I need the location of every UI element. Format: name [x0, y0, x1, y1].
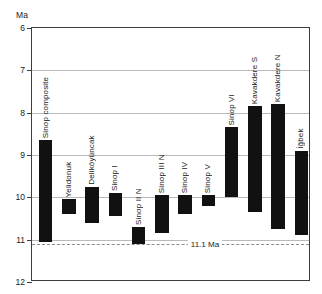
bar-delik-y-ncak[interactable]	[85, 187, 99, 223]
y-tick-label-10: 10	[16, 192, 25, 202]
gridline-8	[32, 113, 309, 114]
gridline-9	[32, 155, 309, 156]
plot-area: 6789101112 Sinop compositeYelidonukDelik…	[31, 27, 310, 281]
bar-sinop-ii-n[interactable]	[132, 227, 146, 244]
bar-label-sinop-v: Sinop V	[203, 28, 212, 193]
y-tick-mark-12	[27, 282, 32, 283]
y-axis-unit-label: Ma	[16, 10, 28, 20]
y-tick-label-11: 11	[16, 235, 25, 245]
bar-label-sinop-composite: Sinop composite	[41, 28, 50, 138]
bar-kavakdere-s[interactable]	[248, 106, 262, 212]
bar-label-sinop-i: Sinop I	[110, 28, 119, 191]
y-tick-mark-10	[27, 197, 32, 198]
y-tick-mark-6	[27, 28, 32, 29]
bar-label-i-bek: İğbek	[296, 28, 305, 149]
y-tick-mark-8	[27, 113, 32, 114]
bar-label-sinop-iv: Sinop IV	[180, 28, 189, 193]
bar-sinop-composite[interactable]	[39, 140, 53, 242]
bar-label-kavakdere-s: Kavakdere S	[250, 28, 259, 104]
bar-sinop-vi[interactable]	[225, 127, 239, 197]
bar-i-bek[interactable]	[295, 151, 309, 236]
bar-sinop-iv[interactable]	[178, 195, 192, 214]
reference-line-label: 11.1 Ma	[188, 239, 222, 248]
gridline-7	[32, 70, 309, 71]
y-tick-label-9: 9	[20, 150, 25, 160]
bar-sinop-iii-n[interactable]	[155, 195, 169, 233]
bar-kavakdere-n[interactable]	[271, 104, 285, 229]
reference-line-11-1-ma	[32, 244, 309, 245]
y-tick-label-8: 8	[20, 108, 25, 118]
bar-sinop-v[interactable]	[202, 195, 216, 206]
chart-figure: Ma 6789101112 Sinop compositeYelidonukDe…	[0, 0, 322, 294]
bar-label-kavakdere-n: Kavakdere N	[273, 28, 282, 102]
y-tick-label-12: 12	[16, 277, 25, 287]
bar-label-sinop-iii-n: Sinop III N	[157, 28, 166, 193]
y-tick-mark-11	[27, 240, 32, 241]
bar-label-sinop-ii-n: Sinop II N	[134, 28, 143, 225]
bar-label-yelidonuk: Yelidonuk	[64, 28, 73, 197]
y-tick-label-6: 6	[20, 23, 25, 33]
y-tick-label-7: 7	[20, 65, 25, 75]
bar-yelidonuk[interactable]	[62, 199, 76, 214]
y-tick-mark-7	[27, 70, 32, 71]
gridline-11	[32, 240, 309, 241]
gridline-10	[32, 197, 309, 198]
bar-label-delik-y-ncak: Deliköyüncak	[87, 28, 96, 185]
bar-label-sinop-vi: Sinop VI	[227, 28, 236, 125]
bar-sinop-i[interactable]	[109, 193, 123, 216]
y-tick-mark-9	[27, 155, 32, 156]
